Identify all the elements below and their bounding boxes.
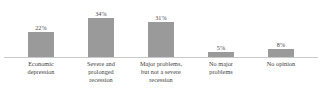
bar-chart: 22%34%31%5%8% EconomicdepressionSevere a… xyxy=(0,0,322,94)
bar-rect xyxy=(88,18,114,58)
bar-column: 8% xyxy=(268,0,294,58)
bar-column: 22% xyxy=(28,0,54,58)
bar-column: 5% xyxy=(208,0,234,58)
bar-group: 22% xyxy=(11,0,71,58)
category-label-line: recession xyxy=(131,76,191,84)
x-axis-category-labels: EconomicdepressionSevere andprolongedrec… xyxy=(0,60,322,94)
category-label-line: depression xyxy=(11,68,71,76)
bar-value-label: 22% xyxy=(35,24,47,31)
category-label-line: but not a severe xyxy=(131,68,191,76)
category-label-line: No opinion xyxy=(251,60,311,68)
category-label-line: Severe and xyxy=(71,60,131,68)
category-label-line: Major problems, xyxy=(131,60,191,68)
bar-column: 31% xyxy=(148,0,174,58)
bar-value-label: 5% xyxy=(217,44,225,51)
bar-rect xyxy=(28,32,54,58)
category-label: No majorproblems xyxy=(191,60,251,76)
category-label-line: prolonged xyxy=(71,68,131,76)
category-label-line: No major xyxy=(191,60,251,68)
bar-rect xyxy=(148,22,174,58)
bar-group: 8% xyxy=(251,0,311,58)
bar-value-label: 31% xyxy=(155,14,167,21)
chart-plot-area: 22%34%31%5%8% xyxy=(0,0,322,58)
category-label: No opinion xyxy=(251,60,311,68)
category-label-line: Economic xyxy=(11,60,71,68)
category-label-line: problems xyxy=(191,68,251,76)
category-label: Economicdepression xyxy=(11,60,71,76)
category-label: Severe andprolongedrecession xyxy=(71,60,131,85)
bar-value-label: 8% xyxy=(277,41,285,48)
bar-value-label: 34% xyxy=(95,10,107,17)
bar-group: 5% xyxy=(191,0,251,58)
x-axis-baseline xyxy=(4,57,318,58)
category-label: Major problems,but not a severerecession xyxy=(131,60,191,85)
bar-column: 34% xyxy=(88,0,114,58)
category-label-line: recession xyxy=(71,76,131,84)
bar-group: 31% xyxy=(131,0,191,58)
bar-group: 34% xyxy=(71,0,131,58)
